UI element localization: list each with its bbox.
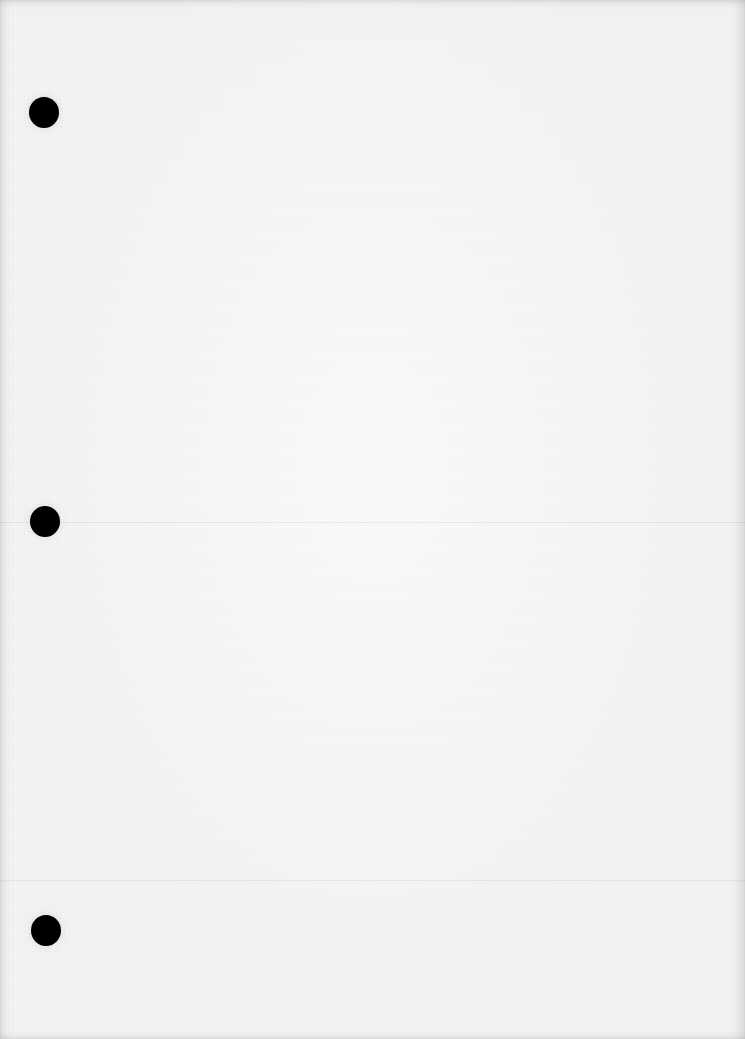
punch-hole-bottom [31,915,61,946]
paper-texture [0,0,745,1039]
punch-hole-top [29,97,59,128]
punch-hole-middle [30,506,60,537]
paper-sheet [0,0,745,1039]
fold-line-middle [0,522,745,523]
fold-line-lower [0,880,745,881]
